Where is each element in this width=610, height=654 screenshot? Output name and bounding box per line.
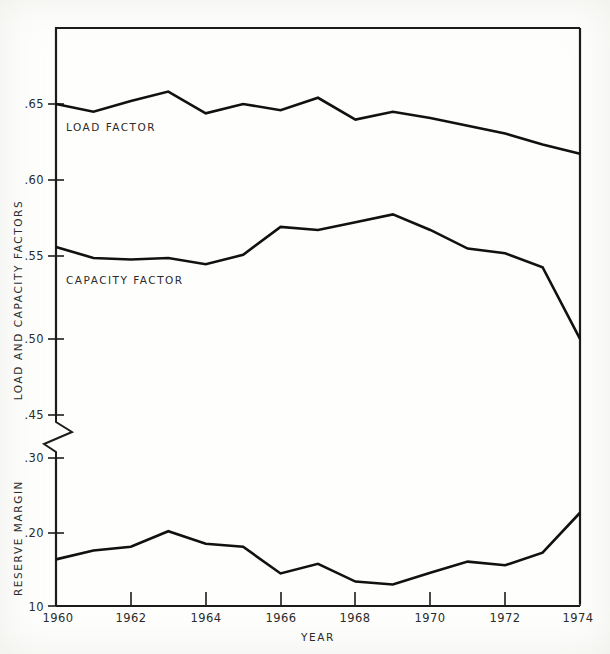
chart-page: .65 .60 .55 .50 .45 .30 .20 10 LOAD AND …: [0, 0, 610, 654]
y-axis-title-upper: LOAD AND CAPACITY FACTORS: [12, 200, 24, 400]
y-axis-lower-tick-labels: .30 .20 10: [25, 451, 45, 614]
y-axis-title-lower: RESERVE MARGIN: [12, 480, 24, 596]
x-tick-label-1962: 1962: [116, 611, 147, 625]
x-tick-label-1966: 1966: [266, 611, 297, 625]
y-tick-label-065: .65: [25, 97, 45, 111]
series-line-reserve-margin: [56, 513, 580, 585]
y-tick-label-045: .45: [25, 408, 45, 422]
y-axis-upper-tick-labels: .65 .60 .55 .50 .45: [25, 97, 45, 422]
x-axis-ticks: [56, 592, 580, 606]
line-chart: .65 .60 .55 .50 .45 .30 .20 10 LOAD AND …: [0, 0, 610, 654]
y-tick-label-030: .30: [25, 451, 45, 465]
x-axis-tick-labels: 1960 1962 1964 1966 1968 1970 1972 1974: [43, 611, 594, 625]
x-tick-label-1970: 1970: [415, 611, 446, 625]
x-tick-label-1964: 1964: [191, 611, 222, 625]
x-tick-label-1972: 1972: [490, 611, 521, 625]
y-tick-label-050: .50: [25, 332, 45, 346]
series-label-capacity-factor: CAPACITY FACTOR: [66, 274, 184, 286]
series-label-load-factor: LOAD FACTOR: [66, 121, 156, 133]
x-tick-label-1968: 1968: [340, 611, 371, 625]
y-axis-break-zigzag: [44, 415, 72, 458]
x-tick-label-1974: 1974: [563, 611, 594, 625]
y-tick-label-020: .20: [25, 526, 45, 540]
y-tick-label-060: .60: [25, 173, 45, 187]
x-tick-label-1960: 1960: [43, 611, 74, 625]
y-tick-label-055: .55: [25, 249, 45, 263]
x-axis-title: YEAR: [300, 631, 335, 643]
